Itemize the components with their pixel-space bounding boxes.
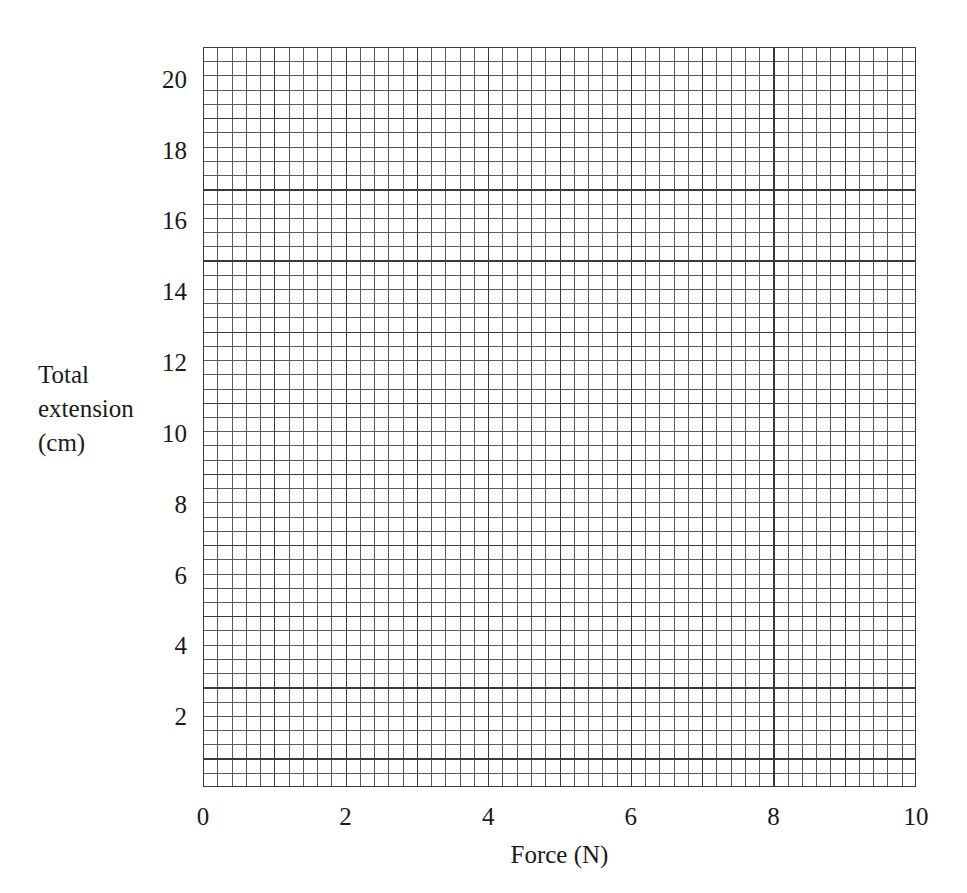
y-tick-4: 4	[127, 633, 187, 658]
y-tick-8: 8	[127, 491, 187, 516]
y-tick-16: 16	[127, 208, 187, 233]
x-tick-4: 4	[453, 804, 523, 829]
x-tick-8: 8	[738, 804, 808, 829]
plot-border	[203, 47, 916, 787]
y-tick-2: 2	[127, 704, 187, 729]
y-tick-14: 14	[127, 279, 187, 304]
graph-figure: 20 18 16 14 12 10 8 6 4 2 0 2 4 6 8 10 T…	[0, 0, 967, 893]
y-axis-title: Total extension (cm)	[38, 358, 188, 460]
x-tick-6: 6	[596, 804, 666, 829]
y-tick-6: 6	[127, 562, 187, 587]
y-tick-18: 18	[127, 137, 187, 162]
y-axis-title-line-3: (cm)	[38, 426, 188, 460]
x-tick-0: 0	[168, 804, 238, 829]
plot-area[interactable]	[203, 47, 916, 787]
x-tick-2: 2	[311, 804, 381, 829]
y-tick-20: 20	[127, 66, 187, 91]
x-tick-10: 10	[881, 804, 951, 829]
x-axis-title: Force (N)	[203, 840, 916, 870]
y-axis-title-line-1: Total	[38, 358, 188, 392]
y-axis-title-line-2: extension	[38, 392, 188, 426]
x-axis-tick-labels: 0 2 4 6 8 10	[203, 795, 916, 829]
